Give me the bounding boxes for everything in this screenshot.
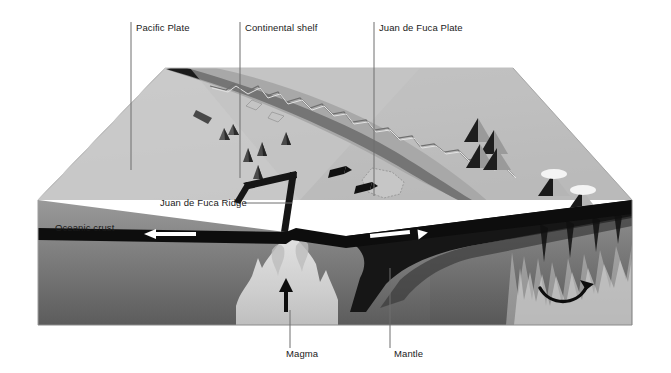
block-top-surface — [38, 62, 632, 205]
label-magma: Magma — [286, 348, 318, 359]
diagram-svg — [0, 0, 671, 373]
label-mantle: Mantle — [394, 348, 423, 359]
label-pacific-plate: Pacific Plate — [136, 22, 190, 33]
label-oceanic-crust: Oceanic crust — [55, 222, 114, 233]
label-juan-de-fuca-ridge: Juan de Fuca Ridge — [160, 197, 247, 208]
label-juan-de-fuca-plate: Juan de Fuca Plate — [379, 22, 463, 33]
label-continental-shelf: Continental shelf — [245, 22, 317, 33]
cross-section-front-face — [38, 200, 632, 325]
block-diagram-figure: Pacific Plate Continental shelf Juan de … — [0, 0, 671, 373]
